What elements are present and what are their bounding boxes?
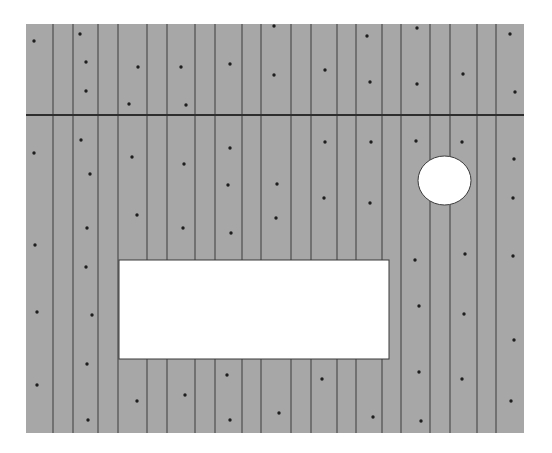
fastener-dot [415, 82, 418, 85]
fastener-dot [226, 183, 229, 186]
fastener-dot [33, 243, 36, 246]
fastener-dot [32, 151, 35, 154]
fastener-dot [179, 65, 182, 68]
fastener-dot [136, 65, 139, 68]
fastener-dot [322, 196, 325, 199]
fastener-dot [419, 419, 422, 422]
fastener-dot [460, 140, 463, 143]
diagram-stage [0, 0, 552, 453]
fastener-dot [228, 418, 231, 421]
fastener-dot [79, 138, 82, 141]
fastener-dot [461, 72, 464, 75]
wall-panel-diagram [0, 0, 552, 453]
fastener-dot [183, 393, 186, 396]
fastener-dot [275, 182, 278, 185]
fastener-dot [277, 411, 280, 414]
fastener-dot [84, 60, 87, 63]
rectangular-opening [119, 260, 389, 359]
fastener-dot [84, 265, 87, 268]
fastener-dot [35, 310, 38, 313]
fastener-dot [371, 415, 374, 418]
fastener-dot [323, 140, 326, 143]
fastener-dot [413, 258, 416, 261]
fastener-dot [181, 226, 184, 229]
fastener-dot [462, 312, 465, 315]
fastener-dot [463, 252, 466, 255]
fastener-dot [415, 26, 418, 29]
fastener-dot [135, 399, 138, 402]
fastener-dot [272, 73, 275, 76]
fastener-dot [417, 304, 420, 307]
fastener-dot [368, 201, 371, 204]
fastener-dot [513, 90, 516, 93]
circular-opening [418, 156, 471, 205]
fastener-dot [182, 162, 185, 165]
fastener-dot [323, 68, 326, 71]
fastener-dot [511, 254, 514, 257]
fastener-dot [320, 377, 323, 380]
fastener-dot [228, 62, 231, 65]
fastener-dot [508, 32, 511, 35]
fastener-dot [274, 216, 277, 219]
fastener-dot [228, 146, 231, 149]
fastener-dot [512, 338, 515, 341]
fastener-dot [35, 383, 38, 386]
wall-panel [26, 24, 524, 433]
fastener-dot [509, 399, 512, 402]
fastener-dot [368, 80, 371, 83]
fastener-dot [229, 231, 232, 234]
fastener-dot [78, 32, 81, 35]
fastener-dot [32, 39, 35, 42]
fastener-dot [511, 196, 514, 199]
fastener-dot [460, 377, 463, 380]
fastener-dot [365, 34, 368, 37]
fastener-dot [127, 102, 130, 105]
fastener-dot [90, 313, 93, 316]
fastener-dot [225, 373, 228, 376]
fastener-dot [369, 140, 372, 143]
fastener-dot [272, 24, 275, 27]
fastener-dot [84, 89, 87, 92]
fastener-dot [130, 155, 133, 158]
fastener-dot [85, 226, 88, 229]
fastener-dot [512, 157, 515, 160]
fastener-dot [135, 213, 138, 216]
fastener-dot [414, 139, 417, 142]
fastener-dot [88, 172, 91, 175]
fastener-dot [184, 103, 187, 106]
fastener-dot [86, 418, 89, 421]
fastener-dot [85, 362, 88, 365]
fastener-dot [417, 370, 420, 373]
